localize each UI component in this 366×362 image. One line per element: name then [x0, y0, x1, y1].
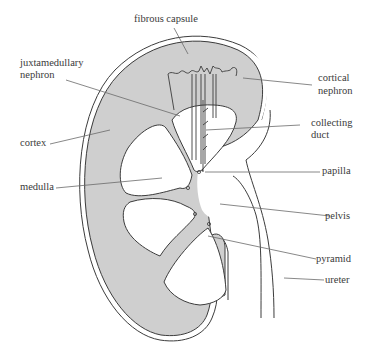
label-pelvis: pelvis — [325, 210, 350, 222]
label-cortical-nephron-line2: nephron — [318, 85, 352, 97]
label-cortex: cortex — [20, 137, 46, 149]
label-collecting-duct-line1: collecting — [311, 117, 352, 129]
label-ureter: ureter — [325, 274, 349, 286]
label-pyramid: pyramid — [316, 253, 351, 265]
label-juxtamedullary-nephron-line2: nephron — [20, 69, 54, 81]
label-juxtamedullary-nephron-line1: juxtamedullary — [20, 57, 84, 69]
label-cortical-nephron-line1: cortical — [318, 72, 349, 84]
kidney-illustration — [0, 0, 366, 362]
label-papilla: papilla — [322, 165, 351, 177]
label-medulla: medulla — [20, 181, 54, 193]
label-collecting-duct-line2: duct — [311, 129, 329, 141]
kidney-diagram: fibrous capsule juxtamedullary nephron c… — [0, 0, 366, 362]
label-fibrous-capsule: fibrous capsule — [134, 13, 198, 25]
